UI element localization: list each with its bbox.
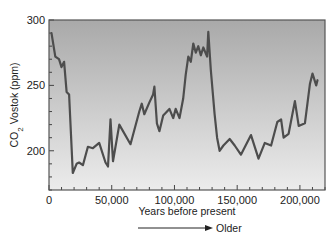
arrow-head-icon (205, 225, 213, 231)
x-tick-label: 200,000 (280, 194, 320, 206)
y-axis-tick-labels: 200250300 (27, 14, 45, 157)
y-axis-title: CO2 Vostok (ppm) (8, 63, 25, 148)
y-tick-label: 300 (27, 14, 45, 26)
y-tick-label: 250 (27, 79, 45, 91)
x-axis-title: Years before present (138, 205, 235, 217)
x-tick-label: 0 (46, 194, 52, 206)
older-annotation: Older (138, 222, 242, 234)
y-tick-label: 200 (27, 145, 45, 157)
plot-area (49, 20, 325, 190)
co2-vostok-chart: 200250300 050,000100,000150,000200,000 C… (0, 0, 336, 239)
x-tick-label: 50,000 (95, 194, 129, 206)
older-label: Older (216, 222, 242, 234)
